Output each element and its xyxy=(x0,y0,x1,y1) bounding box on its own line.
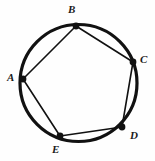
vertex-dot-b xyxy=(73,23,80,30)
vertex-label-b: B xyxy=(68,4,75,15)
vertex-dot-a xyxy=(20,76,27,83)
vertex-dot-c xyxy=(130,59,137,66)
circle-outline xyxy=(20,25,137,142)
vertex-label-c: C xyxy=(140,54,147,65)
vertex-label-d: D xyxy=(130,130,138,141)
geometry-figure: A B C D E xyxy=(0,0,155,161)
vertex-label-a: A xyxy=(7,72,14,83)
pentagon-chords xyxy=(23,26,133,136)
circle-path xyxy=(20,25,137,142)
vertex-dot-e xyxy=(57,133,64,140)
vertex-label-e: E xyxy=(52,144,59,155)
vertex-dot-d xyxy=(119,124,126,131)
